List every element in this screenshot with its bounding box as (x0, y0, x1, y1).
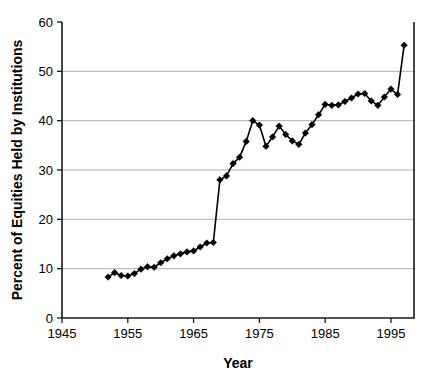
x-tick-label: 1995 (377, 326, 406, 341)
x-axis-title: Year (223, 355, 253, 371)
y-axis-title: Percent of Equities Held by Institutions (9, 39, 25, 300)
y-tick-label: 10 (39, 261, 53, 276)
y-tick-label: 60 (39, 15, 53, 30)
x-tick-label: 1985 (311, 326, 340, 341)
line-chart: 0102030405060 194519551965197519851995 Y… (0, 0, 435, 379)
y-tick-label: 0 (46, 311, 53, 326)
x-tick-label: 1965 (179, 326, 208, 341)
chart-background (0, 0, 435, 379)
x-tick-label: 1955 (113, 326, 142, 341)
y-tick-label: 20 (39, 212, 53, 227)
x-tick-label: 1975 (245, 326, 274, 341)
x-tick-label: 1945 (48, 326, 77, 341)
y-tick-label: 40 (39, 113, 53, 128)
y-tick-label: 50 (39, 64, 53, 79)
y-tick-label: 30 (39, 163, 53, 178)
chart-container: 0102030405060 194519551965197519851995 Y… (0, 0, 435, 379)
